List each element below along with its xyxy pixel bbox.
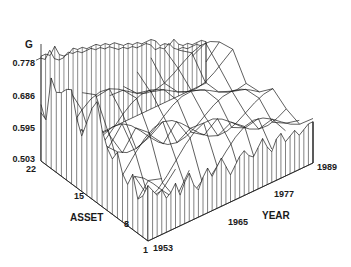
year-tick-1977: 1977	[274, 189, 294, 199]
z-axis-label: G	[25, 39, 33, 50]
year-tick-1989: 1989	[317, 162, 337, 172]
z-tick-0503: 0.503	[12, 154, 35, 164]
surface-chart: G 0.778 0.686 0.595 0.503 22 15 8 1 ASSE…	[0, 0, 351, 267]
year-tick-1953: 1953	[153, 243, 173, 253]
asset-tick-1: 1	[143, 245, 148, 255]
z-tick-0686: 0.686	[12, 91, 35, 101]
z-tick-0595: 0.595	[12, 123, 35, 133]
z-tick-0778: 0.778	[12, 58, 35, 68]
year-tick-1965: 1965	[228, 217, 248, 227]
year-axis-label: YEAR	[262, 210, 291, 221]
asset-tick-8: 8	[124, 219, 129, 229]
asset-tick-15: 15	[74, 191, 84, 201]
asset-tick-22: 22	[26, 164, 36, 174]
asset-axis-label: ASSET	[70, 212, 103, 223]
